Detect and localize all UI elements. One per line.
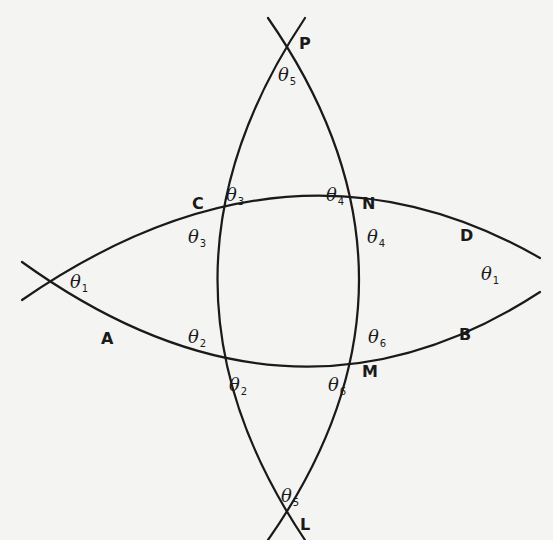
angle-theta6-upper: θ6: [368, 328, 386, 349]
point-label-M: M: [362, 364, 378, 380]
lower-arc-AMB: [22, 262, 540, 367]
point-label-L: L: [300, 517, 310, 533]
angle-theta2-upper: θ2: [188, 328, 206, 349]
upper-arc-CND: [22, 196, 540, 300]
angle-theta5-top: θ5: [278, 66, 296, 87]
point-label-P: P: [299, 36, 311, 52]
point-label-C: C: [192, 196, 204, 212]
point-label-D: D: [460, 228, 473, 244]
angle-theta2-lower: θ2: [229, 376, 247, 397]
left-arc-PCL: [218, 18, 306, 540]
angle-theta4-upper: θ4: [326, 186, 344, 207]
angle-theta1-right: θ1: [481, 265, 499, 286]
spherical-quadrilateral-diagram: P C N D A B M L θ5 θ3 θ4 θ3 θ4 θ1 θ1 θ2 …: [0, 0, 553, 540]
point-label-N: N: [362, 196, 375, 212]
diagram-arcs: [0, 0, 553, 540]
point-label-B: B: [459, 327, 471, 343]
angle-theta4-lower: θ4: [367, 228, 385, 249]
angle-theta6-lower: θ6: [328, 376, 346, 397]
angle-theta5-bottom: θ5: [281, 487, 299, 508]
angle-theta3-lower: θ3: [188, 228, 206, 249]
point-label-A: A: [101, 331, 113, 347]
angle-theta3-upper: θ3: [226, 186, 244, 207]
right-arc-PNL: [268, 18, 359, 540]
angle-theta1-left: θ1: [70, 273, 88, 294]
